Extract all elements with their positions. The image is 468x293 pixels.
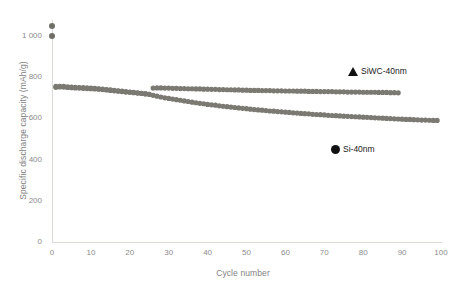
x-tick-label: 80 bbox=[348, 248, 378, 257]
x-tick-label: 10 bbox=[76, 248, 106, 257]
y-axis-title: Specific discharge capacity (mAh/g) bbox=[18, 18, 28, 243]
y-tick-label: 1 000 bbox=[2, 31, 42, 40]
x-tick-label: 50 bbox=[232, 248, 262, 257]
y-tick-label: 200 bbox=[2, 196, 42, 205]
y-tick-label: 800 bbox=[2, 72, 42, 81]
y-axis-line bbox=[52, 20, 53, 243]
x-axis-title: Cycle number bbox=[0, 268, 468, 278]
series-siwc-40nm bbox=[49, 33, 401, 97]
y-tick-label: 600 bbox=[2, 113, 42, 122]
chart-figure: Specific discharge capacity (mAh/g) Cycl… bbox=[0, 0, 468, 293]
x-tick-label: 60 bbox=[270, 248, 300, 257]
x-tick-label: 30 bbox=[154, 248, 184, 257]
legend-entry-siwc-40nm: SiWC-40nm bbox=[348, 66, 407, 76]
triangle-marker-icon bbox=[348, 67, 358, 76]
x-tick-label: 90 bbox=[387, 248, 417, 257]
circle-marker-icon bbox=[331, 145, 340, 154]
x-tick-label: 70 bbox=[309, 248, 339, 257]
x-tick-label: 40 bbox=[193, 248, 223, 257]
y-tick-label: 400 bbox=[2, 155, 42, 164]
x-tick-label: 0 bbox=[37, 248, 67, 257]
x-tick-label: 100 bbox=[426, 248, 456, 257]
y-tick-label: 0 bbox=[2, 237, 42, 246]
legend-label-siwc-40nm: SiWC-40nm bbox=[361, 66, 407, 76]
x-axis-line bbox=[52, 242, 442, 243]
legend-entry-si-40nm: Si-40nm bbox=[331, 144, 375, 154]
legend-label-si-40nm: Si-40nm bbox=[343, 144, 375, 154]
x-tick-label: 20 bbox=[115, 248, 145, 257]
